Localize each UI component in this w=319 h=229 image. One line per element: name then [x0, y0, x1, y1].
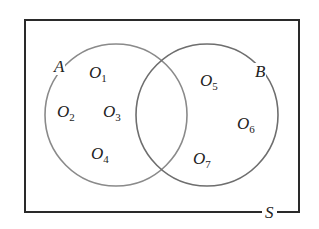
outcome-o6: O6: [237, 115, 255, 135]
outcome-base: O: [193, 149, 205, 168]
outcome-o5: O5: [200, 72, 218, 92]
outcome-o1: O1: [89, 64, 107, 84]
outcome-sub: 6: [249, 123, 255, 135]
outcome-sub: 3: [115, 111, 121, 123]
outcome-base: O: [89, 63, 101, 82]
universe-label: S: [262, 204, 277, 221]
outcome-o3: O3: [103, 103, 121, 123]
outcome-base: O: [91, 144, 103, 163]
outcome-base: O: [57, 102, 69, 121]
outcome-sub: 7: [205, 158, 211, 170]
outcome-sub: 5: [212, 80, 218, 92]
set-a-label: A: [53, 58, 65, 75]
outcome-base: O: [237, 114, 249, 133]
outcome-base: O: [200, 71, 212, 90]
outcome-sub: 2: [69, 111, 75, 123]
outcome-o4: O4: [91, 145, 109, 165]
outcome-o7: O7: [193, 150, 211, 170]
set-b-label: B: [254, 63, 266, 80]
outcome-base: O: [103, 102, 115, 121]
outcome-o2: O2: [57, 103, 75, 123]
outcome-sub: 1: [101, 72, 107, 84]
outcome-sub: 4: [103, 153, 109, 165]
venn-diagram: [0, 0, 319, 229]
